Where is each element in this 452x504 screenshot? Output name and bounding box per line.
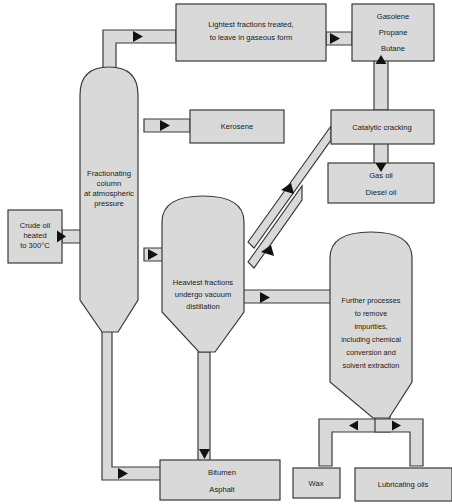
svg-text:solvent extraction: solvent extraction (343, 361, 400, 370)
svg-text:Crude oil: Crude oil (20, 221, 51, 230)
label-kerosene: Kerosene (221, 122, 254, 131)
svg-text:Bitumen: Bitumen (208, 468, 236, 477)
svg-text:Gas oil: Gas oil (369, 171, 393, 180)
label-catalytic-cracking: Catalytic cracking (352, 123, 412, 132)
svg-text:to remove: to remove (355, 309, 387, 318)
svg-text:Gasolene: Gasolene (377, 12, 410, 21)
svg-text:Heaviest fractions: Heaviest fractions (173, 278, 234, 287)
svg-text:to 300°C: to 300°C (20, 241, 50, 250)
svg-text:Propane: Propane (379, 28, 408, 37)
pipe-vacuum-to-further (243, 290, 336, 303)
svg-text:pressure: pressure (94, 199, 124, 208)
pipe-catalytic-to-gases (374, 60, 388, 110)
svg-text:conversion and: conversion and (346, 348, 396, 357)
box-bitumen (160, 460, 280, 500)
label-wax: Wax (309, 479, 324, 488)
label-gases: Gasolene Propane Butane (377, 12, 410, 53)
svg-text:undergo vacuum: undergo vacuum (175, 290, 232, 299)
svg-text:Fractionating: Fractionating (87, 169, 131, 178)
svg-text:heated: heated (23, 231, 46, 240)
svg-text:Butane: Butane (381, 44, 405, 53)
svg-text:distillation: distillation (186, 302, 219, 311)
pipe-recycle-lower (248, 186, 302, 268)
vessel-vacuum-distillation (162, 196, 244, 352)
svg-text:Further processes: Further processes (342, 296, 401, 305)
pipe-vacuum-to-bitumen (198, 352, 210, 464)
label-lubricating-oils: Lubricating oils (378, 480, 429, 489)
svg-text:including chemical: including chemical (341, 335, 401, 344)
label-crude-oil: Crude oil heated to 300°C (20, 221, 51, 250)
refinery-flow-diagram: Crude oil heated to 300°C Fractionating … (0, 0, 452, 504)
svg-text:impurities,: impurities, (354, 322, 387, 331)
svg-text:column: column (97, 179, 121, 188)
svg-text:Diesel oil: Diesel oil (366, 188, 397, 197)
svg-text:at atmospheric: at atmospheric (84, 189, 134, 198)
pipe-column-bottom-to-bitumen (102, 330, 185, 480)
svg-text:to leave in gaseous form: to leave in gaseous form (210, 33, 293, 42)
svg-text:Lightest fractions treated,: Lightest fractions treated, (208, 20, 293, 29)
svg-text:Asphalt: Asphalt (209, 485, 235, 494)
